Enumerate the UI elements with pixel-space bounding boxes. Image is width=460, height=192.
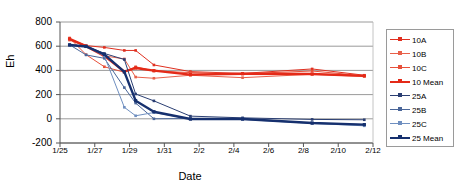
legend-swatch-icon [390, 91, 410, 101]
legend-swatch-icon [390, 119, 410, 129]
legend-swatch-icon [390, 63, 410, 73]
legend-item-25-mean[interactable]: 25 Mean [390, 131, 451, 145]
data-point-25a [134, 93, 137, 96]
data-point-25-mean [241, 117, 244, 120]
data-point-10b [241, 76, 244, 79]
data-point-25-mean [123, 70, 126, 73]
data-point-25-mean [103, 53, 106, 56]
legend-label: 25A [410, 92, 426, 101]
data-point-25-mean [84, 45, 87, 48]
data-point-25-mean [363, 123, 366, 126]
data-point-10b [134, 76, 137, 79]
legend-label: 25 Mean [410, 134, 443, 143]
data-point-25a [363, 118, 366, 121]
data-point-10a [103, 46, 106, 49]
data-point-10a [123, 49, 126, 52]
chart-legend: 10A10B10C10 Mean25A25B25C25 Mean [386, 29, 454, 147]
legend-swatch-icon [390, 49, 410, 59]
legend-label: 10A [410, 36, 426, 45]
data-point-10-mean [241, 72, 244, 75]
data-point-25-mean [134, 99, 137, 102]
legend-swatch-icon [390, 133, 410, 143]
data-point-10-mean [311, 72, 314, 75]
data-point-25a [153, 100, 156, 103]
data-point-10-mean [189, 73, 192, 76]
data-point-25c [123, 106, 126, 109]
legend-item-25c[interactable]: 25C [390, 117, 451, 131]
legend-label: 10B [410, 50, 426, 59]
chart-container: Eh Date 8006004002000-200 1/251/271/291/… [0, 0, 460, 192]
data-point-10b [153, 77, 156, 80]
data-point-25-mean [68, 43, 71, 46]
data-point-25a [123, 58, 126, 61]
data-point-10-mean [363, 74, 366, 77]
data-point-25-mean [152, 110, 155, 113]
data-point-25b [85, 54, 88, 57]
legend-swatch-icon [390, 35, 410, 45]
series-line-25a [70, 45, 365, 120]
data-point-25-mean [189, 117, 192, 120]
data-point-25b [123, 86, 126, 89]
legend-swatch-icon [390, 77, 410, 87]
legend-label: 10C [410, 64, 427, 73]
data-point-25b [153, 118, 156, 121]
data-point-10c [103, 65, 106, 68]
legend-item-10a[interactable]: 10A [390, 33, 451, 47]
data-point-25a [311, 118, 314, 121]
legend-item-10-mean[interactable]: 10 Mean [390, 75, 451, 89]
data-point-25c [134, 114, 137, 117]
data-point-25a [189, 115, 192, 118]
legend-item-25a[interactable]: 25A [390, 89, 451, 103]
legend-item-10b[interactable]: 10B [390, 47, 451, 61]
legend-item-10c[interactable]: 10C [390, 61, 451, 75]
legend-swatch-icon [390, 105, 410, 115]
data-point-10a [134, 49, 137, 52]
legend-label: 25B [410, 106, 426, 115]
data-point-10c [311, 70, 314, 73]
legend-item-25b[interactable]: 25B [390, 103, 451, 117]
data-point-25-mean [311, 121, 314, 124]
data-point-10-mean [134, 66, 137, 69]
data-point-10a [153, 64, 156, 67]
data-point-10-mean [68, 37, 71, 40]
legend-label: 10 Mean [410, 78, 443, 87]
data-point-10-mean [152, 69, 155, 72]
legend-label: 25C [410, 120, 427, 129]
